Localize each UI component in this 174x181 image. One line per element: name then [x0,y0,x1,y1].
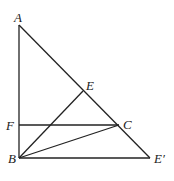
label-E-prime: E′ [153,151,165,166]
label-E: E [85,78,94,93]
label-A: A [13,10,22,25]
label-F: F [5,118,15,133]
geometry-diagram: A B C E F E′ [0,0,174,181]
label-B: B [8,151,16,166]
label-C: C [123,117,132,132]
